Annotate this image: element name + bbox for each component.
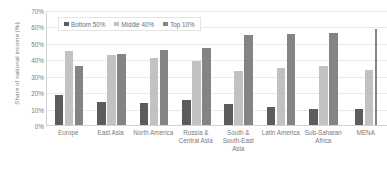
bar[interactable] [182, 100, 191, 125]
y-axis-tick-label: 30% [10, 73, 44, 80]
bar[interactable] [365, 70, 374, 125]
bar[interactable] [287, 34, 296, 125]
bar[interactable] [192, 61, 201, 125]
x-axis-tick-label: Latin America [260, 129, 303, 154]
bar[interactable] [117, 54, 126, 125]
x-axis-tick-label: MENA [345, 129, 387, 154]
legend-swatch-icon-middle-40 [114, 22, 119, 27]
legend-item-bottom-50[interactable]: Bottom 50% [64, 21, 105, 28]
bar-group [260, 11, 302, 125]
bar[interactable] [234, 71, 243, 125]
y-axis-tick-label: 60% [10, 24, 44, 31]
bar-group [302, 11, 344, 125]
bar[interactable] [55, 95, 64, 125]
bar[interactable] [160, 50, 169, 125]
bar[interactable] [309, 109, 318, 125]
chart-legend: Bottom 50% Middle 40% Top 10% [58, 17, 201, 31]
x-axis-tick-labels: EuropeEast AsiaNorth AmericaRussia & Cen… [47, 129, 387, 154]
x-axis-tick-label: Russia & Central Asia [175, 129, 218, 154]
bar[interactable] [224, 104, 233, 125]
y-axis-tick-label: 0% [10, 123, 44, 130]
bar-group [218, 11, 260, 125]
bar[interactable] [329, 33, 338, 125]
x-axis-tick-label: North America [132, 129, 175, 154]
bar[interactable] [65, 51, 74, 125]
x-axis-tick-label: East Asia [90, 129, 133, 154]
bar[interactable] [267, 107, 276, 125]
bar[interactable] [244, 35, 253, 125]
bar-group [345, 11, 387, 125]
bar[interactable] [319, 66, 328, 125]
legend-label-middle-40: Middle 40% [121, 21, 154, 28]
bar[interactable] [150, 58, 159, 125]
bar[interactable] [75, 66, 84, 125]
x-axis-tick-label: South & South-East Asia [217, 129, 260, 154]
legend-label-bottom-50: Bottom 50% [71, 21, 105, 28]
legend-swatch-icon-top-10 [163, 22, 168, 27]
bar[interactable] [202, 48, 211, 125]
y-axis-tick-label: 40% [10, 57, 44, 64]
bar[interactable] [277, 68, 286, 126]
y-axis-tick-label: 70% [10, 8, 44, 15]
legend-item-middle-40[interactable]: Middle 40% [114, 21, 154, 28]
x-axis-tick-label: Europe [47, 129, 90, 154]
y-axis-tick-label: 10% [10, 106, 44, 113]
bar[interactable] [107, 55, 116, 125]
legend-label-top-10: Top 10% [170, 21, 195, 28]
bar[interactable] [140, 103, 149, 125]
legend-swatch-icon-bottom-50 [64, 22, 69, 27]
bar-chart: Share of national income (%) 0%10%20%30%… [0, 0, 387, 171]
bar[interactable] [355, 109, 364, 125]
x-axis-tick-label: Sub-Saharan Africa [302, 129, 345, 154]
y-axis-tick-label: 50% [10, 40, 44, 47]
y-axis-tick-label: 20% [10, 90, 44, 97]
bar[interactable] [97, 102, 106, 125]
bar[interactable] [375, 29, 378, 125]
legend-item-top-10[interactable]: Top 10% [163, 21, 195, 28]
